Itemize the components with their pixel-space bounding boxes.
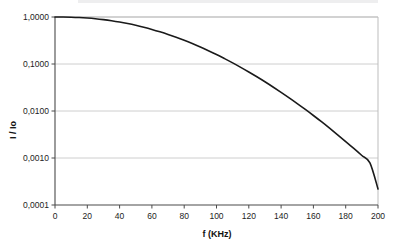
y-tick-label: 1,0000 [23, 12, 49, 22]
x-tick-label: 60 [147, 211, 157, 221]
x-tick-label: 40 [115, 211, 125, 221]
y-axis-ticks: 1,00000,10000,01000,00100,0001 [23, 12, 55, 210]
y-tick-label: 0,0100 [23, 106, 49, 116]
x-tick-label: 120 [242, 211, 256, 221]
x-tick-label: 20 [83, 211, 93, 221]
x-tick-label: 200 [371, 211, 385, 221]
x-tick-label: 180 [339, 211, 353, 221]
x-axis-ticks: 020406080100120140160180200 [53, 205, 386, 221]
y-axis-title: I / Io [8, 120, 18, 139]
line-chart: 1,00000,10000,01000,00100,0001 020406080… [0, 0, 398, 243]
y-tick-label: 0,0001 [23, 200, 49, 210]
y-tick-label: 0,0010 [23, 153, 49, 163]
x-axis-title: f (KHz) [203, 229, 232, 239]
x-tick-label: 80 [179, 211, 189, 221]
x-tick-label: 0 [53, 211, 58, 221]
x-tick-label: 160 [306, 211, 320, 221]
chart-figure: 1,00000,10000,01000,00100,0001 020406080… [0, 0, 398, 243]
x-tick-label: 100 [209, 211, 223, 221]
y-tick-label: 0,1000 [23, 59, 49, 69]
x-tick-label: 140 [274, 211, 288, 221]
